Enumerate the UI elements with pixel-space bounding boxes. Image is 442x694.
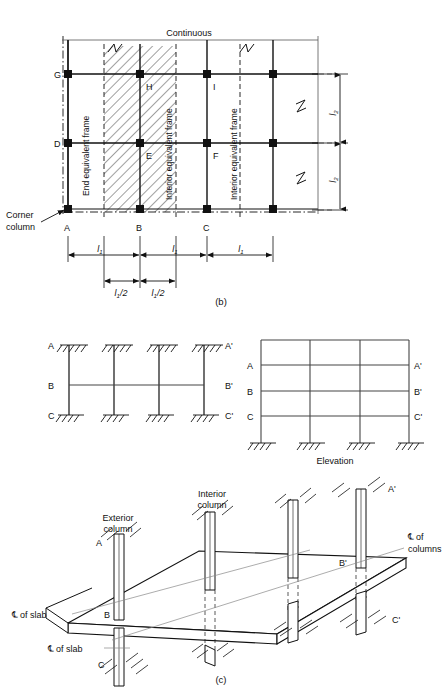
iso-node-label-B: B — [104, 610, 110, 620]
svg-text:l2: l2 — [328, 177, 339, 183]
node-I — [203, 70, 211, 78]
dim-text-half-left: l1/2 — [115, 288, 128, 299]
slab-left-stub — [46, 608, 68, 633]
elev-label-C: C — [247, 412, 254, 422]
centerline-symbol-slab-upper: ℄ — [11, 610, 18, 620]
node-label-D: D — [54, 139, 61, 149]
end-equivalent-frame-label: End equivalent frame — [81, 115, 91, 196]
cl-of-columns-label: ℄of columns — [407, 532, 442, 554]
svg-text:l1/2: l1/2 — [115, 288, 128, 299]
node-label-F: F — [213, 151, 219, 161]
cl-of-slab-label-lower: ℄of slab — [47, 644, 83, 654]
cl-of-slab-lower-text: of slab — [56, 644, 83, 654]
node-H — [136, 70, 144, 78]
corner-column-label-line2: column — [6, 222, 35, 232]
node-C — [203, 205, 211, 213]
equivalent-frame-figure: Continuous G H I D E F A B C End equival… — [0, 0, 442, 694]
continuous-label: Continuous — [166, 28, 212, 38]
interior-equivalent-frame-label-1: Interior equivalent frame — [164, 108, 174, 200]
vdim-text-upper: l2 — [328, 110, 339, 116]
svg-text:l1: l1 — [172, 244, 177, 255]
iso-frame-label-C: C — [48, 411, 55, 421]
vdim-upper-sub: 2 — [333, 110, 339, 115]
node-bot-4 — [269, 205, 277, 213]
iso-node-label-A: A — [96, 538, 102, 548]
exterior-column-label-line1: Exterior — [102, 513, 133, 523]
svg-text:l1/2: l1/2 — [152, 288, 165, 299]
dim-text-span-2: l1 — [172, 244, 177, 255]
svg-text:l2: l2 — [328, 110, 339, 116]
break-symbol-right-upper — [296, 100, 306, 112]
iso-frame-label-A: A — [48, 341, 54, 351]
dim-span-3-sub: 1 — [240, 249, 243, 255]
elev-label-Bp: B' — [414, 387, 422, 397]
plan-view: Continuous G H I D E F A B C End equival… — [6, 28, 348, 307]
node-G — [64, 70, 72, 78]
svg-text:℄of: ℄of — [407, 532, 424, 542]
elev-label-A: A — [247, 361, 253, 371]
node-label-I: I — [213, 82, 216, 92]
svg-text:℄of slab: ℄of slab — [11, 610, 47, 620]
node-A — [64, 205, 72, 213]
svg-text:l1: l1 — [238, 244, 243, 255]
cl-of-columns-line2: columns — [408, 544, 442, 554]
elevation-frame: A B C A' B' C' Elevation — [247, 340, 424, 466]
node-label-A: A — [64, 223, 70, 233]
corner-column-label-line1: Corner — [6, 210, 34, 220]
dim-half-left-suffix: /2 — [119, 288, 128, 298]
dim-span-1-sub: 1 — [99, 249, 102, 255]
node-label-G: G — [54, 70, 61, 80]
interior-column-label-line1: Interior — [198, 489, 226, 499]
iso-node-label-Ap: A' — [388, 484, 396, 494]
exterior-column-label-line2: column — [103, 524, 132, 534]
iso-frame-label-Ap: A' — [225, 341, 233, 351]
node-F — [203, 139, 211, 147]
break-symbol-right-lower — [296, 172, 306, 184]
dim-text-half-right: l1/2 — [152, 288, 165, 299]
caption-c: (c) — [215, 674, 226, 685]
node-D — [64, 139, 72, 147]
corner-callout-leader — [41, 210, 64, 222]
elevation-supports — [248, 443, 424, 450]
dim-half-right-suffix: /2 — [156, 288, 165, 298]
vdim-lower-sub: 2 — [333, 177, 339, 182]
dim-text-span-3: l1 — [238, 244, 243, 255]
svg-text:l1: l1 — [97, 244, 102, 255]
dim-span-2-sub: 1 — [174, 249, 177, 255]
iso-node-label-Cp: C' — [392, 615, 400, 625]
node-B — [136, 205, 144, 213]
svg-text:℄of slab: ℄of slab — [47, 644, 83, 654]
iso-frame-label-Cp: C' — [225, 411, 233, 421]
node-top-4 — [269, 70, 277, 78]
isometric-view: A B C — [11, 477, 442, 686]
iso-frame-label-B: B — [48, 381, 54, 391]
elev-label-Ap: A' — [414, 361, 422, 371]
frame-top-supports — [57, 345, 223, 352]
centerline-symbol-slab-lower: ℄ — [47, 644, 54, 654]
column-4-lower — [356, 591, 366, 635]
node-label-H: H — [146, 82, 153, 92]
centerline-symbol-columns: ℄ — [407, 532, 414, 542]
node-mid-4 — [269, 139, 277, 147]
node-E — [136, 139, 144, 147]
interior-equivalent-frame-label-2: Interior equivalent frame — [229, 108, 239, 200]
interior-column-label-line2: column — [197, 500, 226, 510]
node-label-B: B — [136, 223, 142, 233]
isolated-equivalent-frame: A B C A' B' C' — [48, 341, 233, 422]
frame-bottom-supports — [56, 415, 219, 422]
slab-left-stub-edge — [46, 588, 92, 608]
caption-b: (b) — [215, 296, 227, 307]
cl-of-slab-label-upper: ℄of slab — [11, 610, 47, 620]
cl-of-columns-line1: of — [416, 532, 424, 542]
dim-text-span-1: l1 — [97, 244, 102, 255]
node-label-E: E — [146, 151, 152, 161]
cl-of-slab-upper-text: of slab — [20, 610, 47, 620]
elev-label-B: B — [247, 387, 253, 397]
elev-label-Cp: C' — [414, 412, 422, 422]
node-label-C: C — [203, 223, 210, 233]
elevation-title: Elevation — [316, 456, 353, 466]
iso-frame-label-Bp: B' — [225, 381, 233, 391]
column-2-lower — [205, 645, 215, 666]
vdim-text-lower: l2 — [328, 177, 339, 183]
column-3-lower — [288, 601, 298, 643]
